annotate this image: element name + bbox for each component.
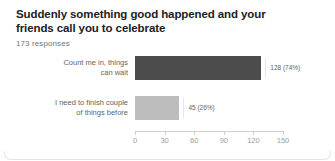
x-axis-tick-label: 90 [220, 136, 228, 145]
x-axis-tick [165, 131, 166, 135]
survey-result-card: Suddenly something good happened and you… [0, 0, 335, 161]
page-title: Suddenly something good happened and you… [16, 7, 306, 35]
x-axis-tick-label: 120 [247, 136, 260, 145]
x-axis-line [135, 131, 283, 132]
bar-category-label: Count me in, things can wait [50, 58, 128, 77]
x-axis-tick [224, 131, 225, 135]
x-axis-tick [283, 131, 284, 135]
x-axis-tick [194, 131, 195, 135]
bar-value-label: 128 (74%) [270, 64, 300, 71]
x-axis-tick [253, 131, 254, 135]
bar-row: Count me in, things can wait128 (74%) [0, 56, 335, 80]
x-axis-tick-label: 60 [190, 136, 198, 145]
x-axis-tick-label: 30 [160, 136, 168, 145]
bar[interactable] [135, 56, 261, 80]
bar-category-label: I need to finish couple of things before [50, 98, 128, 117]
bar-chart: 0306090120150 Count me in, things can wa… [0, 50, 335, 150]
x-axis-tick-label: 0 [133, 136, 137, 145]
responses-count: 173 responses [16, 39, 70, 48]
bar[interactable] [135, 96, 179, 120]
bar-end-marker [183, 98, 184, 118]
bar-value-label: 45 (26%) [188, 104, 214, 111]
bar-end-marker [265, 58, 266, 78]
bar-row: I need to finish couple of things before… [0, 96, 335, 120]
x-axis-tick [135, 131, 136, 135]
x-axis-tick-label: 150 [277, 136, 290, 145]
card-bottom-edge [4, 151, 331, 160]
